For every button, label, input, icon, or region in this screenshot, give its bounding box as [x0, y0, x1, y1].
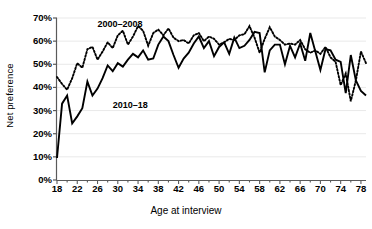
x-tick-label: 54 — [234, 184, 245, 194]
series-lines — [57, 26, 366, 158]
x-tick-label: 58 — [254, 184, 265, 194]
x-tick-label: 26 — [92, 184, 103, 194]
x-tick-label: 74 — [335, 184, 346, 194]
x-tick-label: 70 — [315, 184, 326, 194]
x-tick-label: 62 — [275, 184, 286, 194]
x-tick-label: 66 — [295, 184, 306, 194]
series-label-2010-18: 2010–18 — [113, 100, 148, 110]
x-axis-tick-labels: 18222630343842465054586266707478 — [0, 184, 372, 198]
x-tick-label: 78 — [356, 184, 367, 194]
x-tick-label: 42 — [173, 184, 184, 194]
x-tick-label: 18 — [52, 184, 63, 194]
gridlines — [57, 18, 366, 157]
series-label-2000-2008: 2000–2008 — [98, 19, 143, 29]
x-tick-label: 38 — [153, 184, 164, 194]
x-tick-label: 46 — [194, 184, 205, 194]
x-axis-title: Age at interview — [0, 205, 372, 216]
x-tick-label: 50 — [214, 184, 225, 194]
x-tick-label: 34 — [133, 184, 144, 194]
x-tick-label: 22 — [72, 184, 83, 194]
axis-lines — [57, 18, 367, 181]
chart-root: Net preference 0%10%20%30%40%50%60%70% 1… — [0, 0, 372, 229]
x-tick-label: 30 — [112, 184, 123, 194]
